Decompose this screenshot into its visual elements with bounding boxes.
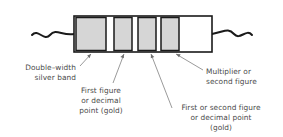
callout-first-figure-line-1: First figure — [81, 86, 121, 95]
leader-line-multiplier — [176, 54, 203, 70]
callout-first-or-second-line-2: or decimal point — [190, 113, 251, 122]
right-lead-wire — [212, 30, 252, 36]
diagram-canvas: Double–width silver band First figure or… — [0, 0, 283, 137]
callout-silver-line-2: silver band — [35, 73, 77, 82]
band-double-width-silver — [76, 18, 106, 51]
callout-first-or-second-figure-gold: First or second figure or decimal point … — [181, 103, 260, 132]
callout-double-width-silver-band: Double–width silver band — [25, 63, 76, 82]
callout-first-figure-line-2: or decimal — [81, 96, 121, 105]
callout-first-or-second-line-1: First or second figure — [181, 103, 260, 112]
callout-first-figure-gold: First figure or decimal point (gold) — [79, 86, 123, 115]
callout-silver-line-1: Double–width — [25, 63, 76, 72]
leader-line-first-or-second-figure — [151, 54, 172, 108]
band-first-figure-gold — [114, 18, 132, 51]
callout-multiplier-line-1: Multiplier or — [206, 67, 252, 76]
leader-line-silver-band — [80, 54, 91, 66]
callout-first-or-second-line-3: (gold) — [210, 123, 232, 132]
callout-first-figure-line-3: point (gold) — [79, 106, 123, 115]
left-lead-wire — [32, 32, 74, 37]
leader-line-first-figure — [113, 54, 124, 83]
resistor-band-diagram: Double–width silver band First figure or… — [0, 0, 283, 137]
band-figure-gold-b — [161, 18, 179, 51]
callout-multiplier-line-2: second figure — [206, 77, 257, 86]
band-figure-gold-a — [138, 18, 156, 51]
callout-multiplier-or-second-figure: Multiplier or second figure — [206, 67, 257, 86]
